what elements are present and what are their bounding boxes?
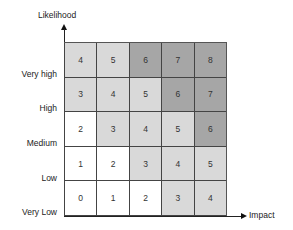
matrix-cell: 1 (96, 181, 128, 216)
matrix-cell: 6 (129, 43, 161, 78)
row-label-high: High (40, 103, 57, 113)
matrix-cell: 4 (161, 147, 193, 182)
x-axis-line (64, 216, 242, 217)
row-label-medium: Medium (27, 138, 57, 148)
matrix-cell: 2 (129, 181, 161, 216)
matrix-cell: 8 (194, 43, 226, 78)
matrix-cell: 4 (96, 78, 128, 113)
matrix-cell: 3 (161, 181, 193, 216)
row-label-very-low: Very Low (22, 207, 57, 217)
matrix-cell: 3 (64, 78, 96, 113)
matrix-cell: 5 (194, 147, 226, 182)
matrix-cell: 4 (194, 181, 226, 216)
matrix-cell: 4 (64, 43, 96, 78)
y-axis-title: Likelihood (38, 10, 76, 20)
matrix-cell: 5 (96, 43, 128, 78)
matrix-cell: 3 (96, 112, 128, 147)
matrix-cell: 2 (96, 147, 128, 182)
matrix-cell: 2 (64, 112, 96, 147)
matrix-cell: 3 (129, 147, 161, 182)
matrix-cell: 5 (161, 112, 193, 147)
matrix-cell: 1 (64, 147, 96, 182)
risk-grid: 4 5 6 7 8 3 4 5 6 7 2 3 4 5 6 1 2 3 4 5 … (64, 42, 227, 216)
matrix-cell: 5 (129, 78, 161, 113)
matrix-cell: 6 (161, 78, 193, 113)
x-axis-arrow-icon (241, 213, 247, 219)
matrix-cell: 4 (129, 112, 161, 147)
matrix-cell: 0 (64, 181, 96, 216)
row-label-low: Low (41, 173, 57, 183)
matrix-cell: 6 (194, 112, 226, 147)
row-label-very-high: Very high (22, 69, 57, 79)
matrix-cell: 7 (194, 78, 226, 113)
x-axis-title: Impact (249, 210, 275, 220)
matrix-cell: 7 (161, 43, 193, 78)
